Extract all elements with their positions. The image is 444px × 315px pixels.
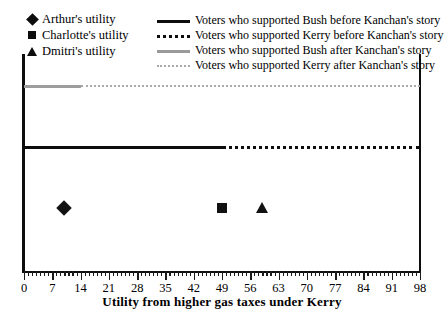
legend-label: Arthur's utility xyxy=(42,12,115,26)
x-tick-minor xyxy=(121,271,122,276)
x-tick-minor xyxy=(367,271,368,276)
x-tick-major xyxy=(279,271,280,280)
x-tick-minor xyxy=(351,271,352,276)
x-tick-major xyxy=(52,271,53,280)
x-tick-minor xyxy=(68,271,69,276)
x-tick-minor xyxy=(311,271,312,276)
x-tick-minor xyxy=(372,271,373,276)
chart-figure: Arthur's utility Charlotte's utility Dmi… xyxy=(0,0,444,315)
x-tick-minor xyxy=(246,271,247,276)
x-tick-minor xyxy=(72,271,73,276)
x-tick-minor xyxy=(113,271,114,276)
x-tick-minor xyxy=(388,271,389,276)
x-tick-major xyxy=(194,271,195,280)
x-tick-minor xyxy=(416,271,417,276)
x-tick-minor xyxy=(242,271,243,276)
series-line-3 xyxy=(81,85,420,87)
x-tick-minor xyxy=(343,271,344,276)
x-tick-minor xyxy=(323,271,324,276)
x-tick-minor xyxy=(153,271,154,276)
x-tick-minor xyxy=(64,271,65,276)
x-tick-minor xyxy=(89,271,90,276)
x-tick-minor xyxy=(101,271,102,276)
data-point-triangle xyxy=(256,202,268,213)
x-tick-minor xyxy=(117,271,118,276)
x-tick-minor xyxy=(141,271,142,276)
x-tick-major xyxy=(307,271,308,280)
x-tick-minor xyxy=(331,271,332,276)
x-tick-minor xyxy=(28,271,29,276)
x-tick-minor xyxy=(32,271,33,276)
x-tick-major xyxy=(137,271,138,280)
x-tick-major xyxy=(109,271,110,280)
x-tick-minor xyxy=(214,271,215,276)
x-tick-minor xyxy=(408,271,409,276)
legend-item-arthur: Arthur's utility xyxy=(26,11,156,27)
x-tick-minor xyxy=(157,271,158,276)
x-tick-minor xyxy=(303,271,304,276)
x-tick-minor xyxy=(206,271,207,276)
x-tick-minor xyxy=(36,271,37,276)
x-tick-minor xyxy=(319,271,320,276)
plot-area xyxy=(24,55,420,272)
x-tick-minor xyxy=(161,271,162,276)
x-tick-minor xyxy=(400,271,401,276)
x-tick-minor xyxy=(230,271,231,276)
x-tick-minor xyxy=(266,271,267,276)
x-tick-minor xyxy=(77,271,78,276)
x-tick-major xyxy=(222,271,223,280)
legend-item-bush-before: Voters who supported Bush before Kanchan… xyxy=(157,13,442,28)
x-tick-minor xyxy=(404,271,405,276)
x-tick-minor xyxy=(275,271,276,276)
x-tick-minor xyxy=(56,271,57,276)
legend-label: Charlotte's utility xyxy=(42,28,129,42)
legend-markers: Arthur's utility Charlotte's utility Dmi… xyxy=(26,11,156,59)
x-tick-minor xyxy=(210,271,211,276)
x-tick-major xyxy=(250,271,251,280)
data-point-diamond xyxy=(57,200,73,216)
x-tick-minor xyxy=(355,271,356,276)
solid-black-line-swatch xyxy=(157,16,190,26)
x-tick-minor xyxy=(295,271,296,276)
x-tick-minor xyxy=(182,271,183,276)
x-tick-minor xyxy=(384,271,385,276)
x-tick-minor xyxy=(327,271,328,276)
x-tick-minor xyxy=(125,271,126,276)
x-tick-minor xyxy=(376,271,377,276)
x-tick-minor xyxy=(169,271,170,276)
data-point-square xyxy=(217,203,227,213)
x-axis-label: Utility from higher gas taxes under Kerr… xyxy=(0,294,444,310)
x-tick-minor xyxy=(198,271,199,276)
cropped-title-remnant xyxy=(0,0,444,8)
legend-label: Voters who supported Kerry before Kancha… xyxy=(195,29,444,42)
square-marker-icon xyxy=(26,31,38,39)
legend-label: Voters who supported Bush before Kanchan… xyxy=(195,14,440,27)
x-tick-minor xyxy=(105,271,106,276)
legend-item-charlotte: Charlotte's utility xyxy=(26,27,156,43)
x-tick-minor xyxy=(44,271,45,276)
x-tick-minor xyxy=(174,271,175,276)
x-tick-minor xyxy=(270,271,271,276)
series-line-0 xyxy=(24,146,222,149)
x-tick-minor xyxy=(287,271,288,276)
x-tick-minor xyxy=(258,271,259,276)
x-tick-minor xyxy=(129,271,130,276)
x-tick-minor xyxy=(299,271,300,276)
x-tick-minor xyxy=(380,271,381,276)
solid-gray-line-swatch xyxy=(157,46,190,56)
x-tick-minor xyxy=(85,271,86,276)
x-tick-minor xyxy=(262,271,263,276)
x-tick-major xyxy=(420,271,421,280)
legend-item-kerry-before: Voters who supported Kerry before Kancha… xyxy=(157,28,442,43)
series-line-2 xyxy=(24,85,81,88)
x-tick-minor xyxy=(60,271,61,276)
x-tick-minor xyxy=(291,271,292,276)
x-tick-minor xyxy=(93,271,94,276)
x-tick-minor xyxy=(283,271,284,276)
x-tick-minor xyxy=(40,271,41,276)
x-tick-minor xyxy=(339,271,340,276)
x-tick-minor xyxy=(396,271,397,276)
x-tick-major xyxy=(392,271,393,280)
x-tick-minor xyxy=(186,271,187,276)
x-tick-minor xyxy=(149,271,150,276)
